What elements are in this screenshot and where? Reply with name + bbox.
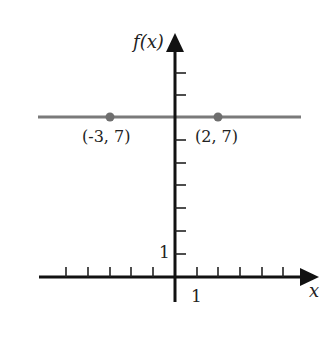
y-tick-label-1: 1 [159, 242, 170, 262]
point-label-neg3-7: (-3, 7) [82, 127, 130, 146]
x-tick-label-1: 1 [191, 286, 202, 306]
y-axis-arrow-icon [166, 33, 184, 52]
chart-area: f(x) x (-3, 7) (2, 7) 1 1 [0, 0, 336, 364]
point-label-2-7: (2, 7) [195, 127, 238, 146]
function-graph [0, 0, 336, 364]
x-axis-label: x [309, 280, 319, 301]
y-ticks [175, 73, 186, 254]
point-neg3-7 [106, 113, 115, 122]
y-axis-label: f(x) [133, 31, 164, 52]
point-2-7 [214, 113, 223, 122]
